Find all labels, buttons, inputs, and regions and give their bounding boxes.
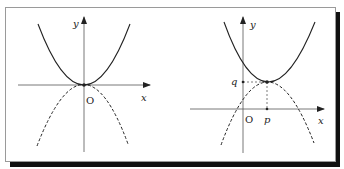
x-axis-label: x xyxy=(318,115,324,126)
vertex-point xyxy=(265,80,269,84)
y-axis-label: y xyxy=(249,19,256,30)
q-point xyxy=(242,81,245,84)
p-point xyxy=(266,108,269,111)
frame xyxy=(6,8,336,162)
origin-label: O xyxy=(245,114,253,125)
origin-label: O xyxy=(86,95,94,106)
q-label: q xyxy=(231,76,237,87)
figure: y x O y x O q p xyxy=(0,0,344,169)
x-axis-label: x xyxy=(141,92,147,103)
y-axis-label: y xyxy=(72,18,79,29)
p-label: p xyxy=(264,114,271,125)
vertex-point xyxy=(82,83,86,87)
